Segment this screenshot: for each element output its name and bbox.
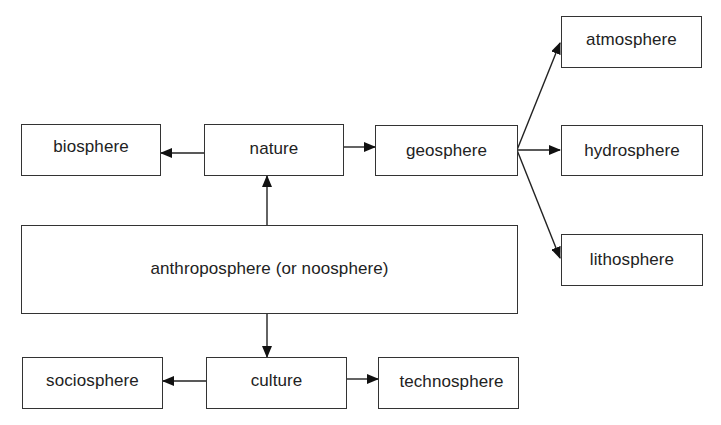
edge-geosphere-lithosphere: [517, 150, 560, 258]
diagram-canvas: biosphere nature geosphere atmosphere hy…: [0, 0, 721, 425]
node-lithosphere: lithosphere: [561, 234, 703, 286]
node-label: lithosphere: [590, 250, 674, 270]
node-culture: culture: [206, 357, 347, 409]
node-geosphere: geosphere: [375, 125, 518, 176]
node-atmosphere: atmosphere: [561, 16, 702, 68]
node-label: nature: [250, 139, 299, 159]
node-nature: nature: [204, 124, 344, 176]
node-label: anthroposphere (or noosphere): [150, 259, 388, 279]
node-label: technosphere: [399, 372, 503, 392]
node-anthroposphere: anthroposphere (or noosphere): [21, 225, 518, 314]
node-hydrosphere: hydrosphere: [561, 125, 703, 176]
node-technosphere: technosphere: [378, 357, 519, 409]
edge-geosphere-atmosphere: [517, 43, 560, 150]
node-label: geosphere: [406, 141, 487, 161]
node-label: atmosphere: [586, 30, 677, 50]
node-sociosphere: sociosphere: [22, 357, 163, 409]
node-label: biosphere: [53, 137, 129, 157]
node-label: hydrosphere: [584, 141, 680, 161]
node-label: sociosphere: [46, 371, 139, 391]
node-label: culture: [251, 371, 303, 391]
node-biosphere: biosphere: [21, 124, 161, 176]
